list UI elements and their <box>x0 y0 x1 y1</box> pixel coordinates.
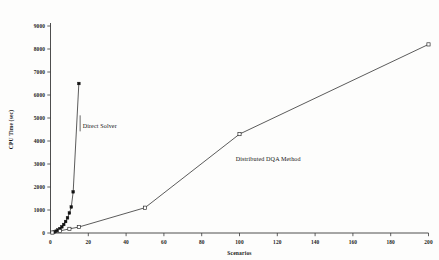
x-tick-label: 80 <box>199 239 205 245</box>
data-point-marker <box>62 223 65 226</box>
data-point-marker <box>64 220 67 223</box>
x-axis-ticks: 020406080100120140160180200 <box>49 233 433 245</box>
annotation-label: Direct Solver <box>83 123 117 129</box>
data-point-marker <box>66 216 69 219</box>
x-tick-label: 200 <box>424 239 433 245</box>
y-tick-label: 6000 <box>34 92 45 98</box>
y-tick-label: 5000 <box>34 115 45 121</box>
data-point-marker <box>58 229 61 232</box>
x-tick-label: 120 <box>273 239 282 245</box>
y-axis-title: CPU Time (sec) <box>8 110 15 150</box>
data-point-marker <box>143 206 146 209</box>
data-point-marker <box>427 43 430 46</box>
x-tick-label: 0 <box>49 239 52 245</box>
data-point-marker <box>68 212 71 215</box>
series-line <box>52 84 78 233</box>
x-tick-label: 180 <box>387 239 396 245</box>
data-point-marker <box>70 206 73 209</box>
series-line <box>52 44 428 232</box>
data-series-group <box>51 43 430 234</box>
chart-annotations: Direct SolverDistributed DQA Method <box>80 115 301 161</box>
series-1 <box>51 82 80 234</box>
series-2 <box>51 43 430 234</box>
data-point-marker <box>51 231 54 234</box>
y-tick-label: 3000 <box>34 161 45 167</box>
data-point-marker <box>238 133 241 136</box>
y-tick-label: 8000 <box>34 46 45 52</box>
y-tick-label: 9000 <box>34 23 45 29</box>
x-tick-label: 160 <box>349 239 358 245</box>
x-tick-label: 40 <box>123 239 129 245</box>
annotation-label: Distributed DQA Method <box>236 156 301 162</box>
x-tick-label: 140 <box>311 239 320 245</box>
x-tick-label: 20 <box>86 239 92 245</box>
chart-plot-area: 0100020003000400050006000700080009000 02… <box>0 0 439 260</box>
y-tick-label: 0 <box>42 230 45 236</box>
y-tick-label: 7000 <box>34 69 45 75</box>
data-point-marker <box>68 227 71 230</box>
y-tick-label: 1000 <box>34 207 45 213</box>
x-tick-label: 100 <box>235 239 244 245</box>
data-point-marker <box>72 190 75 193</box>
data-point-marker <box>78 82 81 85</box>
chart-figure: 0100020003000400050006000700080009000 02… <box>0 0 439 260</box>
x-tick-label: 60 <box>161 239 167 245</box>
data-point-marker <box>77 225 80 228</box>
y-axis-ticks: 0100020003000400050006000700080009000 <box>34 23 51 236</box>
y-tick-label: 2000 <box>34 184 45 190</box>
y-tick-label: 4000 <box>34 138 45 144</box>
x-axis-title: Scenarios <box>227 250 252 256</box>
